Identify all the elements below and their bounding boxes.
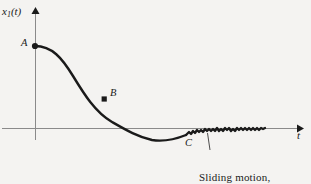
point-label-c: C [185,138,192,149]
x-axis-label: t [297,130,300,141]
y-axis-label: x1(t) [2,6,21,19]
annotation-leader-line [208,133,211,150]
chattering-segment [186,128,265,135]
sliding-motion-annotation: Sliding motion, time constant b [199,150,270,184]
point-marker-A [32,43,38,49]
y-axis-arrowhead [32,7,40,14]
point-label-a: A [21,38,27,49]
annotation-line-1: Sliding motion, [199,172,270,183]
point-label-b: B [110,88,116,99]
y-axis-label-argument: (t) [11,5,21,17]
figure-container: x1(t) t A B C Sliding motion, time const… [0,0,311,184]
point-marker-B [102,96,107,101]
